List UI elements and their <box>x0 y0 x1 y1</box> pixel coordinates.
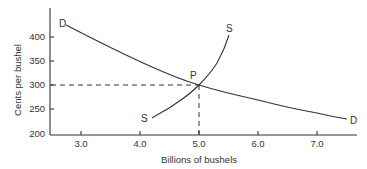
supply-label-end: S <box>226 23 233 34</box>
y-tick-label: 300 <box>29 79 45 90</box>
x-tick-label: 4.0 <box>133 138 146 149</box>
demand-label-end: D <box>350 115 357 126</box>
demand-curve <box>66 25 347 119</box>
y-axis-title: Cents per bushel <box>12 44 23 116</box>
x-tick-label: 3.0 <box>74 138 87 149</box>
supply-demand-chart: 400 350 300 250 200 3.0 4.0 5.0 6.0 7.0 … <box>0 0 367 169</box>
demand-label-start: D <box>59 18 66 29</box>
x-axis-title: Billions of bushels <box>161 154 237 165</box>
equilibrium-label: P <box>190 70 197 81</box>
y-tick-label: 200 <box>29 128 45 139</box>
y-tick-label: 250 <box>29 103 45 114</box>
x-tick-label: 7.0 <box>310 138 323 149</box>
y-tick-label: 350 <box>29 55 45 66</box>
supply-label-start: S <box>141 113 148 124</box>
x-tick-label: 6.0 <box>251 138 264 149</box>
y-tick-label: 400 <box>29 31 45 42</box>
x-tick-label: 5.0 <box>192 138 205 149</box>
